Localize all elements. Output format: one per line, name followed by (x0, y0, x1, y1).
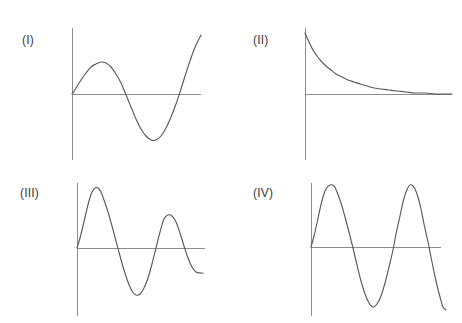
plot-panel-i (72, 28, 201, 160)
panel-label-ii: (II) (253, 33, 268, 47)
plot-panel-iv (311, 183, 446, 316)
figure-root: (I)(II)(III)(IV) (0, 0, 462, 323)
curve-i (72, 35, 201, 141)
curve-ii (305, 33, 452, 94)
panel-label-iv: (IV) (253, 186, 273, 200)
plot-panel-ii (305, 28, 452, 160)
panel-label-i: (I) (22, 33, 34, 47)
panel-label-iii: (III) (20, 186, 39, 200)
plots-canvas (0, 0, 462, 323)
plot-panel-iii (77, 183, 205, 316)
curve-iii (77, 187, 203, 295)
